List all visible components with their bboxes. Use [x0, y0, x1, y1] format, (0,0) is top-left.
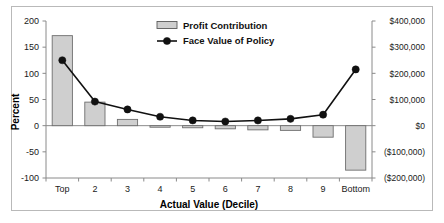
- face-value-point-4: [157, 113, 164, 120]
- x-axis-title: Actual Value (Decile): [160, 199, 258, 210]
- chart-figure: 200150100500-50-100$400,000$300,000$200,…: [0, 0, 444, 223]
- category-label-4: 4: [158, 184, 163, 194]
- right-axis-tick-label: $300,000: [390, 42, 426, 52]
- face-value-point-3: [124, 106, 131, 113]
- right-axis-tick-label: $400,000: [390, 16, 426, 26]
- bar-3: [117, 119, 137, 125]
- right-axis-tick-label: ($100,000): [384, 147, 425, 157]
- face-value-line: [62, 60, 355, 121]
- face-value-point-7: [254, 117, 261, 124]
- category-label-top: Top: [55, 184, 70, 194]
- bar-5: [183, 126, 203, 128]
- bar-top: [52, 36, 72, 126]
- face-value-point-5: [189, 117, 196, 124]
- right-axis-tick-label: $200,000: [390, 69, 426, 79]
- category-label-9: 9: [321, 184, 326, 194]
- bar-2: [85, 102, 105, 126]
- left-axis-tick-label: 150: [24, 42, 39, 52]
- bar-6: [215, 126, 235, 129]
- left-axis-tick-label: -100: [21, 173, 39, 183]
- bar-bottom: [346, 126, 366, 170]
- bar-7: [248, 126, 268, 130]
- bar-9: [313, 126, 333, 138]
- face-value-point-9: [320, 111, 327, 118]
- left-axis-tick-label: 100: [24, 69, 39, 79]
- left-axis-tick-label: 200: [24, 16, 39, 26]
- right-axis-tick-label: ($200,000): [384, 173, 425, 183]
- category-label-bottom: Bottom: [341, 184, 370, 194]
- legend-marker-face-value: [163, 37, 170, 44]
- category-label-8: 8: [288, 184, 293, 194]
- category-label-2: 2: [92, 184, 97, 194]
- category-label-3: 3: [125, 184, 130, 194]
- bar-4: [150, 126, 170, 128]
- left-axis-tick-label: 0: [34, 121, 39, 131]
- face-value-point-2: [91, 98, 98, 105]
- category-label-6: 6: [223, 184, 228, 194]
- right-axis-tick-label: $0: [416, 121, 426, 131]
- legend-label-profit-contribution: Profit Contribution: [183, 20, 268, 31]
- right-axis-tick-label: $100,000: [390, 95, 426, 105]
- category-label-5: 5: [190, 184, 195, 194]
- category-label-7: 7: [255, 184, 260, 194]
- chart-canvas: 200150100500-50-100$400,000$300,000$200,…: [0, 0, 444, 223]
- bar-8: [280, 126, 300, 131]
- left-axis-tick-label: -50: [26, 147, 39, 157]
- face-value-point-8: [287, 115, 294, 122]
- legend-swatch-profit-contribution: [157, 22, 177, 29]
- face-value-point-6: [222, 118, 229, 125]
- left-axis-tick-label: 50: [29, 95, 39, 105]
- legend-label-face-value-of-policy: Face Value of Policy: [183, 35, 275, 46]
- face-value-point-bottom: [352, 66, 359, 73]
- y-axis-title: Percent: [10, 93, 21, 130]
- face-value-point-top: [59, 57, 66, 64]
